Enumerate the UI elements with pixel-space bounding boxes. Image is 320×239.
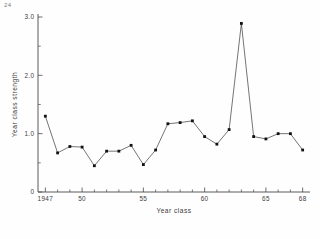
data-point xyxy=(203,135,206,138)
x-tick-label: 60 xyxy=(201,195,209,202)
data-point xyxy=(44,115,47,118)
y-tick-group xyxy=(38,17,43,192)
data-point xyxy=(289,132,292,135)
data-point xyxy=(264,138,267,141)
x-tick-label: 68 xyxy=(299,195,307,202)
x-axis-title: Year class xyxy=(156,207,191,214)
data-series xyxy=(44,22,304,167)
x-tick-label: 65 xyxy=(262,195,270,202)
x-tick-label: 1947 xyxy=(37,195,53,202)
data-point xyxy=(240,22,243,25)
data-point xyxy=(117,150,120,153)
data-point xyxy=(215,143,218,146)
y-tick-label: 0 xyxy=(31,188,35,195)
y-axis-title: Year class strength xyxy=(11,72,19,137)
data-point xyxy=(301,149,304,152)
data-point xyxy=(56,152,59,155)
x-ticklabel-group: 19475055606568 xyxy=(37,195,306,202)
figure-root: 24 01.02.03.0 19475055606568 Year class … xyxy=(0,0,320,239)
data-point xyxy=(130,144,133,147)
chart-container: 01.02.03.0 19475055606568 Year class Yea… xyxy=(0,0,320,239)
data-point xyxy=(81,146,84,149)
data-point xyxy=(68,145,71,148)
data-point xyxy=(277,132,280,135)
series-line xyxy=(45,23,302,165)
x-tick-group xyxy=(45,188,302,193)
data-point xyxy=(191,119,194,122)
data-point xyxy=(142,163,145,166)
data-point xyxy=(154,149,157,152)
series-marker-group xyxy=(44,22,304,167)
y-axis: 01.02.03.0 xyxy=(24,13,42,195)
data-point xyxy=(105,150,108,153)
y-tick-label: 1.0 xyxy=(24,130,34,137)
line-chart: 01.02.03.0 19475055606568 Year class Yea… xyxy=(0,0,320,239)
y-tick-label: 3.0 xyxy=(24,13,34,20)
x-axis: 19475055606568 xyxy=(37,188,310,203)
x-tick-label: 55 xyxy=(139,195,147,202)
data-point xyxy=(93,164,96,167)
data-point xyxy=(228,128,231,131)
y-ticklabel-group: 01.02.03.0 xyxy=(24,13,34,195)
data-point xyxy=(166,122,169,125)
data-point xyxy=(252,135,255,138)
data-point xyxy=(179,121,182,124)
y-tick-label: 2.0 xyxy=(24,72,34,79)
x-tick-label: 50 xyxy=(78,195,86,202)
